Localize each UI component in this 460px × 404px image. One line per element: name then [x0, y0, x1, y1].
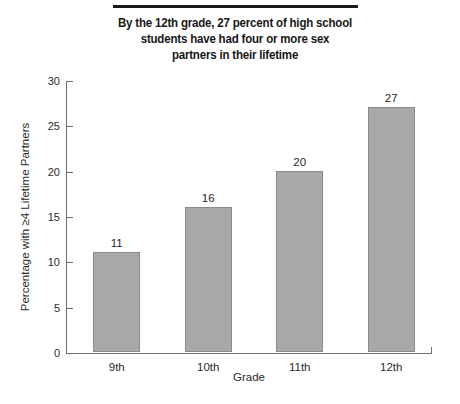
bar-value-label: 20 [293, 156, 306, 168]
y-axis-tick: 30 [66, 81, 73, 82]
y-axis-title: Percentage with ≥4 Lifetime Partners [19, 123, 31, 312]
y-axis-tick-label: 5 [54, 302, 60, 314]
y-axis-tick-label: 0 [54, 347, 60, 359]
y-axis-tick-mark [67, 81, 73, 82]
y-axis-tick: 10 [66, 262, 73, 263]
bar-value-label: 27 [385, 92, 398, 104]
y-axis-tick-label: 20 [48, 166, 60, 178]
y-axis-tick: 5 [66, 308, 73, 309]
y-axis-tick-label: 25 [48, 120, 60, 132]
y-axis-tick: 20 [66, 172, 73, 173]
y-axis-tick-mark [67, 172, 73, 173]
bar: 16 [185, 207, 232, 352]
y-axis-tick-label: 30 [48, 75, 60, 87]
bar: 11 [93, 252, 140, 352]
y-axis-tick-mark [67, 126, 73, 127]
y-axis-tick-mark [67, 262, 73, 263]
bar-value-label: 16 [202, 192, 215, 204]
x-axis-line [66, 353, 432, 354]
y-axis-tick: 25 [66, 126, 73, 127]
title-divider-rule [113, 5, 358, 8]
chart-title-line-1: By the 12th grade, 27 percent of high sc… [74, 15, 396, 31]
chart-title-line-3: partners in their lifetime [74, 47, 396, 63]
bar-value-label: 11 [111, 237, 123, 249]
y-axis-tick-mark [67, 308, 73, 309]
chart-title-line-2: students have had four or more sex [74, 31, 396, 47]
y-axis-tick: 15 [66, 217, 73, 218]
bar: 20 [276, 171, 323, 352]
y-axis-tick: 0 [66, 353, 73, 354]
chart-title: By the 12th grade, 27 percent of high sc… [74, 15, 396, 63]
y-axis-tick-mark [67, 353, 73, 354]
x-axis-end-tick [431, 347, 432, 354]
x-axis-title: Grade [66, 371, 432, 383]
chart-plot-area: 051015202530 11162027 9th10th11th12th [66, 81, 432, 353]
y-axis-tick-label: 10 [48, 256, 60, 268]
bar: 27 [368, 107, 415, 352]
y-axis-tick-label: 15 [48, 211, 60, 223]
y-axis-tick-mark [67, 217, 73, 218]
